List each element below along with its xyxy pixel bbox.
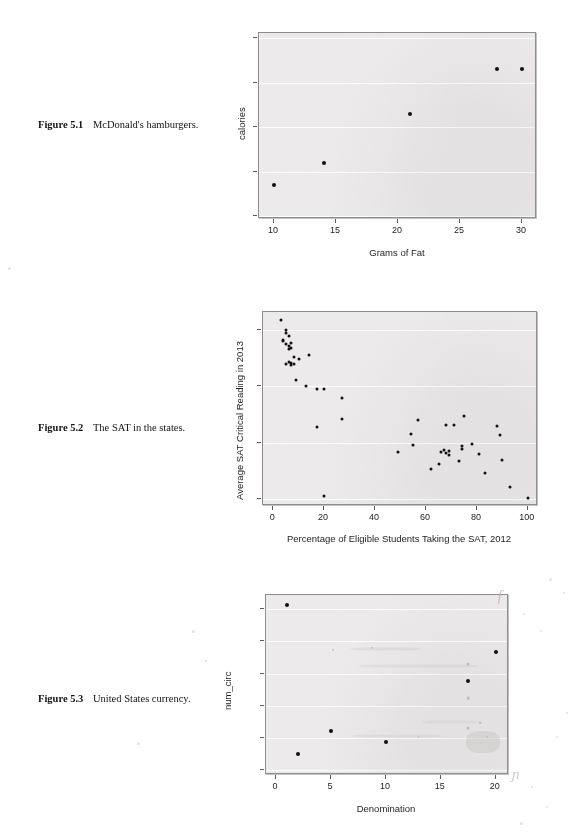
page-speck <box>556 736 558 738</box>
data-point <box>290 347 293 350</box>
data-point <box>483 472 486 475</box>
data-point <box>453 423 456 426</box>
figure-5-1-plot-area <box>258 32 536 218</box>
figure-5-1-caption-text: McDonald's hamburgers. <box>93 119 199 130</box>
x-axis-tick <box>385 775 386 779</box>
x-axis-tick <box>335 219 336 223</box>
data-point <box>297 358 300 361</box>
x-axis-label: 80 <box>471 512 481 522</box>
page-speck <box>8 267 11 270</box>
data-point <box>315 387 318 390</box>
gridline <box>266 706 507 707</box>
data-point <box>305 385 308 388</box>
gridline <box>263 499 536 500</box>
data-point <box>290 341 293 344</box>
data-point <box>408 112 412 116</box>
x-axis-label: 60 <box>420 512 430 522</box>
y-axis-tick <box>253 215 257 216</box>
gridline <box>266 770 507 771</box>
gridline <box>259 172 535 173</box>
data-point <box>445 423 448 426</box>
page-scribble: ɲ <box>512 766 520 783</box>
x-axis-label: 5 <box>327 781 332 791</box>
data-point <box>292 362 295 365</box>
page-speck <box>563 592 565 594</box>
figure-5-2-x-axis-title: Percentage of Eligible Students Taking t… <box>287 533 511 544</box>
figure-5-2-plot-area <box>262 311 537 505</box>
gridline <box>259 216 535 217</box>
figure-5-1-caption-label: Figure 5.1 <box>38 119 83 130</box>
paper-smudge <box>351 648 421 651</box>
y-axis-tick <box>257 498 261 499</box>
x-axis-tick <box>459 219 460 223</box>
data-point <box>495 67 499 71</box>
x-axis-label: 0 <box>272 781 277 791</box>
figure-5-1-x-axis-title: Grams of Fat <box>369 247 424 258</box>
data-point <box>430 467 433 470</box>
page-speck <box>192 630 195 633</box>
x-axis-tick <box>440 775 441 779</box>
figure-5-1-caption: Figure 5.1 McDonald's hamburgers. <box>38 118 218 132</box>
paper-smudge <box>422 720 482 723</box>
gridline <box>263 443 536 444</box>
figure-5-3-y-axis-title: num_circ <box>222 671 233 710</box>
data-point <box>307 353 310 356</box>
x-axis-tick <box>495 775 496 779</box>
data-point <box>287 334 290 337</box>
y-axis-tick <box>253 37 257 38</box>
page-speck <box>549 578 552 581</box>
data-point <box>478 453 481 456</box>
data-point <box>526 497 529 500</box>
paper-smudge <box>359 664 479 667</box>
x-axis-tick <box>527 506 528 510</box>
x-axis-label: 15 <box>435 781 445 791</box>
gridline <box>259 83 535 84</box>
x-axis-label: 40 <box>369 512 379 522</box>
gridline <box>266 674 507 675</box>
gridline <box>266 609 507 610</box>
figure-5-2-caption: Figure 5.2 The SAT in the states. <box>38 421 238 435</box>
x-axis-tick <box>476 506 477 510</box>
data-point <box>409 432 412 435</box>
x-axis-tick <box>521 219 522 223</box>
figure-5-3-x-axis-title: Denomination <box>357 803 416 814</box>
data-point <box>520 67 524 71</box>
data-point <box>412 444 415 447</box>
data-point <box>292 356 295 359</box>
data-point <box>272 183 276 187</box>
gridline <box>266 641 507 642</box>
x-axis-label: 100 <box>519 512 534 522</box>
page-scribble: ƒ <box>496 586 505 606</box>
x-axis-tick <box>272 506 273 510</box>
page-speck <box>531 786 533 788</box>
y-axis-tick <box>257 329 261 330</box>
data-point <box>447 449 450 452</box>
x-axis-label: 25 <box>454 225 464 235</box>
data-point <box>466 679 470 683</box>
x-axis-label: 20 <box>490 781 500 791</box>
y-axis-tick <box>253 171 257 172</box>
y-axis-tick <box>260 673 264 674</box>
figure-5-3-caption-label: Figure 5.3 <box>38 693 83 704</box>
y-axis-tick <box>260 737 264 738</box>
x-axis-label: 10 <box>380 781 390 791</box>
data-point <box>285 603 289 607</box>
figure-5-2-caption-text: The SAT in the states. <box>93 422 185 433</box>
figure-5-3-plot-area <box>265 594 508 774</box>
x-axis-tick <box>275 775 276 779</box>
data-point <box>447 454 450 457</box>
y-axis-tick <box>257 385 261 386</box>
gridline <box>263 330 536 331</box>
data-point <box>496 424 499 427</box>
data-point <box>323 387 326 390</box>
data-point <box>329 729 333 733</box>
paper-artifact <box>467 727 470 730</box>
y-axis-tick <box>260 640 264 641</box>
y-axis-tick <box>260 705 264 706</box>
data-point <box>295 378 298 381</box>
page-speck <box>523 613 525 615</box>
x-axis-label: 0 <box>270 512 275 522</box>
data-point <box>323 494 326 497</box>
x-axis-label: 20 <box>318 512 328 522</box>
page-speck <box>546 806 548 808</box>
